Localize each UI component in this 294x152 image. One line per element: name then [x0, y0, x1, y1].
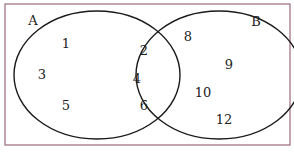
element-1: 1	[62, 36, 70, 51]
element-8: 8	[184, 29, 192, 44]
element-10: 10	[195, 85, 212, 100]
element-6: 6	[140, 98, 148, 113]
diagram-frame	[5, 4, 290, 145]
element-5: 5	[62, 98, 70, 113]
element-2: 2	[140, 43, 148, 58]
element-4: 4	[133, 71, 141, 86]
set-b-label: B	[251, 14, 261, 29]
set-a-label: A	[27, 13, 38, 28]
element-12: 12	[216, 112, 233, 127]
element-3: 3	[38, 67, 46, 82]
element-9: 9	[225, 57, 233, 72]
venn-diagram: AB 135246891012	[0, 0, 294, 152]
